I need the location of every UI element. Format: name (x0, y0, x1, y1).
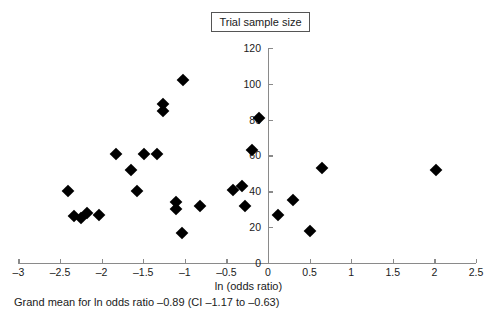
y-tick-label: 100 (243, 78, 261, 90)
x-tick-label: 0 (265, 266, 271, 278)
x-axis-title: ln (odds ratio) (0, 280, 497, 292)
data-point-marker (303, 224, 316, 237)
x-tick-mark (310, 259, 311, 263)
y-tick-mark (268, 84, 273, 85)
data-point-marker (109, 147, 122, 160)
x-tick-mark (102, 259, 103, 263)
y-tick-mark (268, 227, 273, 228)
x-tick-label: –3 (13, 266, 25, 278)
x-tick-label: –2.5 (50, 266, 70, 278)
data-point-marker (93, 208, 106, 221)
y-tick-label: 20 (249, 221, 261, 233)
y-tick-mark (268, 155, 273, 156)
x-axis-line (18, 263, 476, 264)
x-tick-mark (351, 259, 352, 263)
data-point-marker (124, 163, 137, 176)
chart-title: Trial sample size (219, 16, 301, 28)
x-tick-label: –2 (96, 266, 108, 278)
x-tick-mark (393, 259, 394, 263)
x-tick-label: –0.5 (216, 266, 236, 278)
x-tick-mark (434, 259, 435, 263)
x-tick-label: 2.5 (469, 266, 484, 278)
x-tick-label: –1.5 (133, 266, 153, 278)
y-tick-mark (268, 191, 273, 192)
x-tick-mark (18, 259, 19, 263)
x-tick-mark (60, 259, 61, 263)
data-point-marker (151, 147, 164, 160)
data-point-marker (62, 185, 75, 198)
x-tick-mark (143, 259, 144, 263)
y-tick-mark (268, 120, 273, 121)
x-tick-label: 2 (431, 266, 437, 278)
x-tick-mark (226, 259, 227, 263)
data-point-marker (169, 203, 182, 216)
data-point-marker (193, 199, 206, 212)
x-tick-label: 1.5 (385, 266, 400, 278)
data-point-marker (316, 162, 329, 175)
y-tick-mark (268, 48, 273, 49)
data-point-marker (177, 74, 190, 87)
y-tick-label: 120 (243, 42, 261, 54)
data-point-marker (138, 147, 151, 160)
x-tick-label: –1 (179, 266, 191, 278)
x-tick-label: 1 (348, 266, 354, 278)
data-point-marker (287, 194, 300, 207)
data-point-marker (430, 163, 443, 176)
data-point-marker (238, 199, 251, 212)
data-point-marker (176, 226, 189, 239)
x-tick-label: 0.5 (302, 266, 317, 278)
data-point-marker (272, 208, 285, 221)
y-tick-mark (268, 263, 273, 264)
x-tick-mark (185, 259, 186, 263)
data-point-marker (131, 185, 144, 198)
scatter-plot-figure: Trial sample size –3–2.5–2–1.5–1–0.500.5… (0, 0, 497, 317)
chart-title-box: Trial sample size (211, 12, 310, 32)
x-tick-mark (476, 259, 477, 263)
y-tick-label: 0 (255, 257, 261, 269)
y-tick-label: 40 (249, 185, 261, 197)
figure-caption: Grand mean for ln odds ratio –0.89 (CI –… (14, 296, 279, 308)
